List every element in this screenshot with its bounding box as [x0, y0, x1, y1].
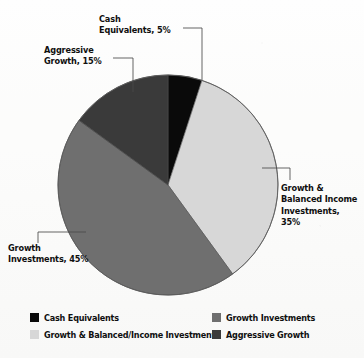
- chart-legend: Cash Equivalents Growth Investments Grow…: [30, 310, 350, 342]
- callout-label-growth-investments: Growth Investments, 45%: [8, 243, 108, 266]
- legend-swatch-icon: [30, 313, 39, 322]
- pie-chart: Cash Equivalents, 5% Aggressive Growth, …: [0, 0, 364, 300]
- legend-swatch-icon: [30, 330, 39, 339]
- callout-label-growth-balanced-income: Growth & Balanced Income Investments, 35…: [281, 183, 361, 229]
- callout-label-cash-equivalents: Cash Equivalents, 5%: [99, 14, 183, 37]
- legend-item-cash-equivalents[interactable]: Cash Equivalents: [30, 310, 212, 325]
- legend-label: Growth & Balanced/Income Investments: [44, 330, 220, 340]
- chart-page: Cash Equivalents, 5% Aggressive Growth, …: [0, 0, 364, 358]
- legend-item-growth-balanced-income-investments[interactable]: Growth & Balanced/Income Investments: [30, 327, 212, 342]
- legend-label: Aggressive Growth: [226, 330, 309, 340]
- callout-label-aggressive-growth: Aggressive Growth, 15%: [44, 45, 122, 68]
- legend-swatch-icon: [212, 330, 221, 339]
- leader-line-cash-equivalents: [183, 28, 202, 80]
- legend-label: Growth Investments: [226, 313, 315, 323]
- legend-label: Cash Equivalents: [44, 313, 119, 323]
- legend-item-aggressive-growth[interactable]: Aggressive Growth: [212, 327, 352, 342]
- legend-swatch-icon: [212, 313, 221, 322]
- legend-item-growth-investments[interactable]: Growth Investments: [212, 310, 352, 325]
